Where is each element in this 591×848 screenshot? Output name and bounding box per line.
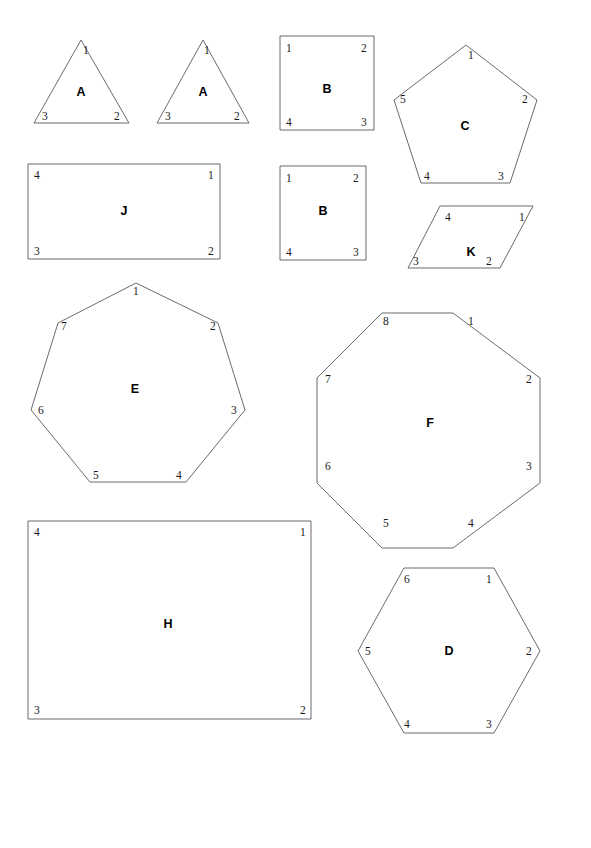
vertex-label: 1 (519, 211, 525, 223)
triangle-a-left-letter: A (76, 85, 85, 99)
vertex-label: 8 (383, 315, 389, 327)
rectangle-j-letter: J (121, 204, 128, 218)
vertex-label: 2 (522, 93, 528, 105)
vertex-label: 1 (468, 315, 474, 327)
vertex-label: 4 (468, 517, 474, 529)
parallelogram-k-letter: K (466, 245, 475, 259)
vertex-label: 3 (413, 255, 419, 267)
vertex-label: 3 (486, 718, 492, 730)
vertex-label: 4 (34, 169, 40, 181)
vertex-label: 3 (42, 110, 48, 122)
heptagon-e-letter: E (131, 382, 139, 396)
vertex-label: 2 (486, 255, 492, 267)
vertex-label: 2 (114, 110, 120, 122)
shape-pentagon-c[interactable]: C 1 2 3 4 5 (394, 45, 537, 183)
vertex-label: 5 (383, 517, 389, 529)
vertex-label: 4 (286, 116, 292, 128)
shape-heptagon-e[interactable]: E 1 2 3 4 5 6 7 (31, 283, 245, 482)
octagon-f-outline[interactable] (317, 313, 540, 548)
vertex-label: 3 (353, 246, 359, 258)
hexagon-d-letter: D (444, 644, 453, 658)
vertex-label: 2 (300, 704, 306, 716)
vertex-label: 3 (231, 404, 237, 416)
vertex-label: 4 (424, 170, 430, 182)
pentagon-c-outline[interactable] (394, 45, 537, 183)
rectangle-h-letter: H (163, 617, 172, 631)
shape-triangle-a-right[interactable]: A 1 2 3 (157, 40, 249, 123)
vertex-label: 2 (234, 110, 240, 122)
vertex-label: 1 (204, 44, 210, 56)
pentagon-c-letter: C (460, 119, 469, 133)
vertex-label: 7 (61, 320, 67, 332)
vertex-label: 4 (176, 469, 182, 481)
vertex-label: 4 (404, 718, 410, 730)
vertex-label: 2 (361, 42, 367, 54)
vertex-label: 1 (300, 526, 306, 538)
shape-square-b-top[interactable]: B 1 2 4 3 (280, 36, 374, 130)
figure-page: A 1 2 3 A 1 2 3 B 1 2 4 3 B 1 2 4 (0, 0, 591, 848)
vertex-label: 6 (404, 573, 410, 585)
vertex-label: 1 (208, 169, 214, 181)
vertex-label: 3 (526, 460, 532, 472)
vertex-label: 4 (34, 526, 40, 538)
shape-rectangle-h[interactable]: H 4 1 3 2 (28, 521, 311, 719)
vertex-label: 5 (93, 469, 99, 481)
vertex-label: 3 (34, 245, 40, 257)
vertex-label: 3 (498, 170, 504, 182)
octagon-f-letter: F (426, 416, 434, 430)
vertex-label: 4 (445, 211, 451, 223)
vertex-label: 2 (210, 320, 216, 332)
vertex-label: 1 (486, 573, 492, 585)
vertex-label: 3 (165, 110, 171, 122)
vertex-label: 1 (133, 285, 139, 297)
vertex-label: 2 (208, 245, 214, 257)
vertex-label: 4 (286, 246, 292, 258)
vertex-label: 2 (526, 373, 532, 385)
vertex-label: 6 (38, 404, 44, 416)
vertex-label: 3 (34, 704, 40, 716)
vertex-label: 1 (83, 44, 89, 56)
shape-rectangle-j[interactable]: J 4 1 3 2 (28, 164, 220, 259)
shape-hexagon-d[interactable]: D 1 2 3 4 5 6 (358, 568, 540, 733)
shape-triangle-a-left[interactable]: A 1 2 3 (34, 40, 129, 123)
shape-square-b-bottom[interactable]: B 1 2 4 3 (280, 166, 366, 260)
shape-octagon-f[interactable]: F 1 2 3 4 5 6 7 8 (317, 313, 540, 548)
vertex-label: 1 (286, 42, 292, 54)
vertex-label: 5 (400, 93, 406, 105)
vertex-label: 6 (325, 460, 331, 472)
triangle-a-right-letter: A (198, 85, 207, 99)
square-b-bottom-letter: B (318, 204, 327, 218)
vertex-label: 1 (468, 49, 474, 61)
vertex-label: 7 (325, 373, 331, 385)
square-b-top-letter: B (322, 82, 331, 96)
shape-parallelogram-k[interactable]: K 4 1 2 3 (408, 206, 533, 268)
vertex-label: 5 (365, 645, 371, 657)
polygon-figure: A 1 2 3 A 1 2 3 B 1 2 4 3 B 1 2 4 (0, 0, 591, 848)
vertex-label: 2 (526, 645, 532, 657)
vertex-label: 3 (361, 116, 367, 128)
vertex-label: 1 (286, 172, 292, 184)
vertex-label: 2 (353, 172, 359, 184)
